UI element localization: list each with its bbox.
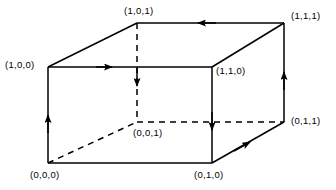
vertex-label-front-top-right: (1,1,0) [216,66,246,76]
edge-top-left-diagonal [48,23,137,67]
vertex-label-back-top-right: (1,1,1) [291,11,321,21]
vertex-label-front-bottom-left: (0,0,0) [30,170,60,180]
cube-figure: (1,0,1) (1,1,1) (1,0,0) (1,1,0) (0,1,1) … [0,0,336,190]
vertex-label-hidden-center: (0,0,1) [133,128,163,138]
vertex-label-front-bottom-right: (0,1,0) [194,170,224,180]
vertex-label-back-top-left: (1,0,1) [124,6,154,16]
vertex-label-back-bottom-right: (0,1,1) [291,116,321,126]
edge-hidden-left-diagonal [48,122,137,163]
edge-top-right-diagonal [212,23,284,67]
vertex-label-front-top-left: (1,0,0) [5,60,35,70]
arrow-bottom-right-diagonal [234,142,250,151]
cube-drawing [0,0,336,190]
